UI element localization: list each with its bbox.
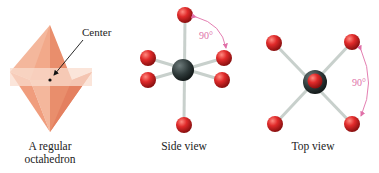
ligand-atom-front-left [140, 72, 156, 88]
top-angle-label: 90° [352, 77, 366, 88]
central-atom [172, 59, 194, 81]
center-point [48, 78, 51, 81]
ligand-atom-back-left [140, 50, 156, 66]
side-angle-label: 90° [199, 30, 213, 41]
caption-line-1: A regular [10, 140, 90, 153]
center-label: Center [82, 26, 111, 38]
side-view-model [140, 7, 232, 133]
ligand-atom-top-overlap [308, 74, 323, 89]
octahedron-shape [10, 25, 92, 132]
ligand-atom-bottom [176, 117, 192, 133]
ligand-atom-ne [344, 34, 360, 50]
ligand-atom-back-right [216, 50, 232, 66]
ligand-atom-sw [267, 116, 283, 132]
top-view-caption: Top view [273, 140, 353, 153]
ligand-atom-top [177, 7, 193, 23]
caption-line-2: octahedron [10, 153, 90, 166]
ligand-atom-se [344, 116, 360, 132]
side-view-caption: Side view [144, 140, 224, 153]
ligand-atom-front-right [214, 72, 230, 88]
ligand-atom-nw [266, 35, 282, 51]
octahedron-caption: A regular octahedron [10, 140, 90, 166]
